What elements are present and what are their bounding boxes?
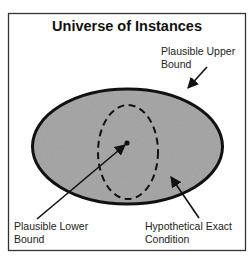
lower-bound-point [124,140,129,145]
exact-condition-label-line-1: Hypothetical Exact [145,220,232,232]
upper-bound-label-line-2: Bound [161,58,192,70]
exact-condition-label-line-2: Condition [145,233,190,245]
lower-bound-label-line-2: Bound [14,233,45,245]
lower-bound-label-line-1: Plausible Lower [14,220,89,232]
upper-bound-label-line-1: Plausible Upper [161,45,236,57]
universe-diagram: Universe of Instances Plausible Upper Bo… [0,0,252,256]
diagram-title: Universe of Instances [52,18,202,34]
